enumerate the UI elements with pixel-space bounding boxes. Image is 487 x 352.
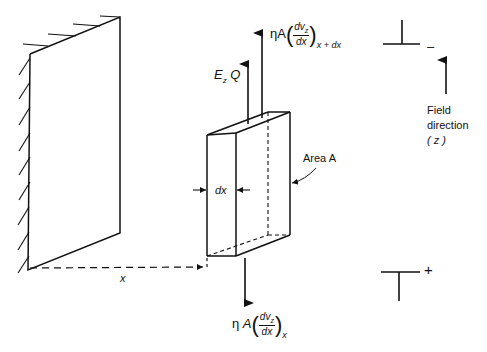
field-plate-bottom: [381, 272, 420, 301]
diagram-canvas: [0, 0, 487, 352]
plate-top-sign: –: [427, 40, 434, 53]
thickness-label: dx: [215, 185, 227, 196]
force-arrows: [245, 33, 262, 303]
area-label: Area A: [303, 153, 336, 164]
distance-x-arrow: [30, 258, 207, 268]
electric-force-label: Ez Q: [214, 68, 240, 85]
field-direction-label: Field direction ( z ): [427, 103, 469, 148]
wall-hatching-top: [23, 16, 120, 46]
area-leader: [292, 168, 316, 183]
plate-bottom-sign: +: [424, 262, 433, 277]
field-plate-top: [383, 20, 420, 44]
wall-plate: [18, 16, 120, 273]
force-bottom-label: η A(dvzdx)x: [232, 312, 287, 340]
force-top-label: ηA(dvzdx)x + dx: [270, 22, 341, 50]
distance-label: x: [120, 273, 126, 284]
